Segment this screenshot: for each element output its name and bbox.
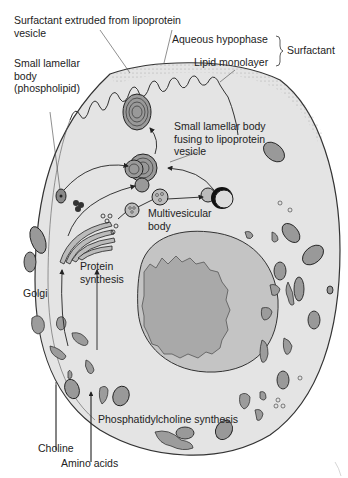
label-multivesicular-body: Multivesicular body xyxy=(148,207,222,232)
label-protein-synthesis: Protein synthesis xyxy=(80,260,140,285)
label-surfactant-extruded: Surfactant extruded from lipoprotein ves… xyxy=(14,14,194,39)
label-golgi: Golgi xyxy=(23,287,48,300)
label-lipid-monolayer: Lipid monolayer xyxy=(194,56,268,69)
label-aqueous-hypophase: Aqueous hypophase xyxy=(172,33,268,46)
nucleus xyxy=(138,231,279,372)
label-phosphatidylcholine-synthesis: Phosphatidylcholine synthesis xyxy=(98,413,238,426)
surfactant-brace xyxy=(276,36,283,66)
label-amino-acids: Amino acids xyxy=(61,457,118,470)
lamellar-body-extruded xyxy=(123,94,151,130)
label-lamellar-fusing: Small lamellar body fusing to lipoprotei… xyxy=(174,120,270,158)
label-small-lamellar-body: Small lamellar body (phospholipid) xyxy=(14,57,96,95)
label-surfactant: Surfactant xyxy=(287,44,335,57)
stray-mark xyxy=(335,462,341,476)
label-choline: Choline xyxy=(38,442,74,455)
